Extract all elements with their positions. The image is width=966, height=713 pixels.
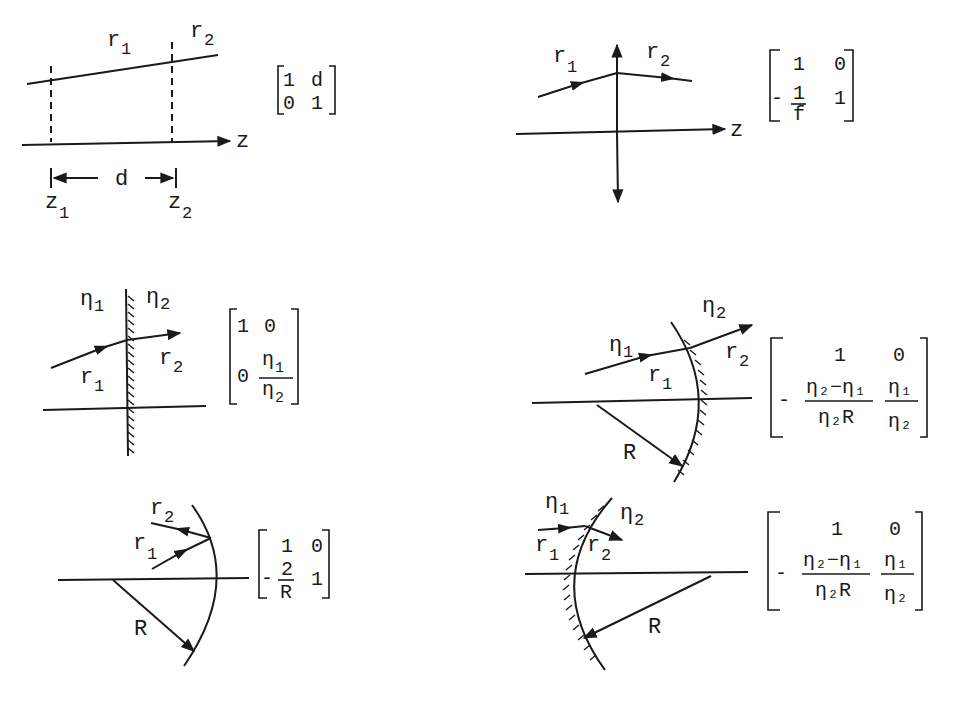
matrix-free-space: 1 d 0 1 [278,66,335,115]
bracket-right [291,309,298,404]
ray-in-subscript: 1 [94,377,104,396]
interface-hatching [128,296,134,453]
n1-subscript: 1 [94,297,104,316]
matrix-d-denominator: η₂ [888,410,912,433]
ray-out-subscript: 2 [173,358,183,377]
matrix-c-sign: - [261,567,273,590]
matrix-a: 1 [237,315,249,338]
ray-out-subscript: 2 [601,546,611,565]
ray-in-subscript: 1 [147,545,157,564]
ray-in-subscript: 1 [567,58,577,77]
matrix-d-numerator-subscript: 1 [275,360,284,377]
radius-arrow [597,405,682,466]
matrix-c-sign: - [771,87,783,110]
n2-subscript: 2 [160,295,170,314]
matrix-curved-interface-concave: 1 0 - η₂−η₁ η₂R η₁ η₂ [768,512,922,610]
bracket-right [322,530,329,598]
axis-label: z [730,118,743,143]
n2-label: η [146,285,159,310]
matrix-d-numerator: η₁ [888,376,912,399]
ray-in [51,340,127,368]
matrix-c-numerator: 2 [281,558,293,581]
radius-label: R [134,617,147,642]
z2-label: z [168,190,181,215]
ray-out [127,333,180,340]
panel-curved-interface-convex: η 1 η 2 r 1 r 2 R 1 0 - η₂−η₁ η₂R η₁ η₂ [532,294,927,482]
matrix-c-denominator: R [280,581,292,604]
z2-subscript: 2 [182,204,192,223]
ray-in [152,538,211,569]
n1-label: η [80,287,93,312]
matrix-d-denominator-subscript: 2 [275,390,284,407]
ray-in-label: r [133,531,146,556]
ray-in [538,73,617,97]
matrix-a: 1 [831,518,843,541]
ray-out-subscript: 2 [739,352,749,371]
bracket-left [768,512,780,610]
matrix-b: d [311,69,323,92]
matrix-d: 1 [311,92,323,115]
matrix-c-numerator: 1 [793,82,805,105]
bracket-right [329,66,335,114]
panel-free-space: z r 1 r 2 d z 1 z 2 1 d 0 1 [22,19,335,223]
bracket-right [920,338,927,437]
distance-label: d [115,167,128,192]
matrix-c-numerator: η₂−η₁ [803,549,863,572]
ray-out-subscript: 2 [164,508,174,527]
axis-label: z [236,129,249,154]
optical-axis [525,572,748,574]
bracket-left [770,50,780,121]
interface-line [126,289,128,456]
ray-in-label: r [648,363,661,388]
interface-hatching [678,340,707,475]
matrix-b: 0 [264,315,276,338]
optical-axis-arrow [22,141,230,145]
n2-label: η [620,501,633,526]
ray-in-subscript: 1 [662,375,672,394]
n1-label: η [545,490,558,515]
ray-out-label: r [190,19,203,44]
bracket-right [915,512,922,610]
ray-out [151,523,211,538]
matrix-spherical-mirror: 1 0 - 2 R 1 [259,530,329,604]
panel-thin-lens: z r 1 r 2 1 0 - 1 f 1 [516,40,853,202]
matrix-d-denominator: η [262,378,274,401]
ray-in-label: r [535,533,548,558]
z1-label: z [45,190,58,215]
ray-out-label: r [587,533,600,558]
matrix-planar-interface: 1 0 0 η 1 η 2 [230,309,298,407]
optics-matrix-figure: z r 1 r 2 d z 1 z 2 1 d 0 1 z r 1 r [0,0,966,713]
n1-subscript: 1 [559,500,569,519]
matrix-c: 0 [283,92,295,115]
matrix-d: 1 [834,87,846,110]
panel-spherical-mirror: r 2 r 1 R 1 0 - 2 R 1 [58,496,329,666]
matrix-c-denominator: η₂R [815,579,851,602]
optical-axis-arrow [516,129,725,134]
matrix-a: 1 [283,69,295,92]
matrix-b: 0 [834,53,846,76]
matrix-c: 0 [237,365,249,388]
radius-label: R [648,615,661,640]
ray-in-subscript: 1 [121,40,131,59]
n1-subscript: 1 [623,343,633,362]
matrix-b: 0 [889,518,901,541]
radius-label: R [623,441,636,466]
ray-in-label: r [80,365,93,390]
ray-out-label: r [150,496,163,521]
panel-curved-interface-concave: η 1 η 2 r 1 r 2 R 1 0 - η₂−η₁ η₂R η₁ η₂ [525,490,922,670]
interface-hatching [563,506,604,660]
matrix-a: 1 [793,53,805,76]
radius-arrow [113,580,194,651]
n2-subscript: 2 [716,304,726,323]
matrix-a: 1 [281,535,293,558]
optical-axis [43,406,206,410]
ray-out-subscript: 2 [660,52,670,71]
matrix-thin-lens: 1 0 - 1 f 1 [770,50,853,126]
curved-interface [574,498,612,670]
ray-in-label: r [107,28,120,53]
ray-in-label: r [553,44,566,69]
lens-arrow-down [617,132,618,202]
matrix-c-denominator: η₂R [818,406,854,429]
ray-out [617,73,692,81]
ray-out-label: r [159,346,172,371]
